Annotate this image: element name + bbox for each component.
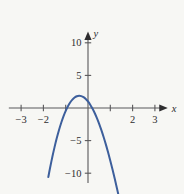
axes-group xyxy=(9,32,168,183)
cubic-function-plot: −3−223−10−5510xy xyxy=(0,0,184,194)
y-tick-label-10: 10 xyxy=(71,37,82,48)
x-tick-label-2: 2 xyxy=(130,114,135,125)
x-tick-label--2: −2 xyxy=(38,114,49,125)
curve-cubic xyxy=(48,96,150,194)
x-axis-label: x xyxy=(171,103,177,114)
tick-labels-group: −3−223−10−5510xy xyxy=(16,28,177,179)
y-axis-arrow-icon xyxy=(84,32,91,41)
y-tick-label-5: 5 xyxy=(76,70,81,81)
x-tick-label--3: −3 xyxy=(16,114,27,125)
x-axis-arrow-icon xyxy=(159,104,168,111)
graph-figure: −3−223−10−5510xy xyxy=(0,0,184,194)
x-tick-label-3: 3 xyxy=(152,114,157,125)
y-tick-label--5: −5 xyxy=(70,135,81,146)
y-tick-label--10: −10 xyxy=(65,168,81,179)
y-axis-label: y xyxy=(93,28,99,39)
curve-group xyxy=(48,96,150,194)
